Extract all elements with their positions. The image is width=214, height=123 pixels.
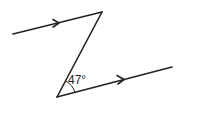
angle-label: 47° — [68, 73, 86, 87]
diagram-canvas: 47° — [0, 0, 214, 123]
z-angle-diagram: 47° — [0, 0, 214, 123]
